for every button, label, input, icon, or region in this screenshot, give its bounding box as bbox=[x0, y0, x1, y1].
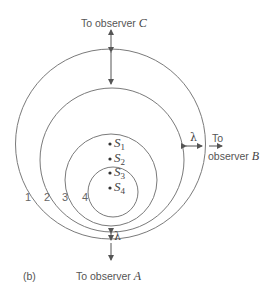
source-dot-1 bbox=[108, 142, 111, 145]
observer-c-label: To observer C bbox=[81, 17, 147, 29]
observer-a-label: To observer A bbox=[76, 270, 141, 282]
observer-b-label-line1: To bbox=[212, 133, 223, 144]
wavefront-label-4: 4 bbox=[82, 192, 88, 203]
source-label-4: S4 bbox=[114, 180, 125, 196]
wavefront-2 bbox=[40, 88, 184, 232]
source-dot-3 bbox=[108, 171, 111, 174]
doppler-wavefront-diagram bbox=[0, 0, 270, 285]
source-dot-4 bbox=[108, 186, 111, 189]
wavefront-4 bbox=[88, 167, 138, 217]
wavelength-label-right: λ bbox=[190, 132, 197, 143]
panel-label: (b) bbox=[23, 271, 36, 282]
wavefront-label-3: 3 bbox=[62, 192, 68, 203]
wavefront-label-1: 1 bbox=[25, 192, 31, 203]
observer-b-label-line2: observer B bbox=[208, 150, 259, 162]
source-dot-2 bbox=[108, 157, 111, 160]
wavefront-3 bbox=[65, 134, 157, 226]
wavelength-label-bottom: λ bbox=[114, 231, 121, 242]
wavefront-label-2: 2 bbox=[44, 192, 50, 203]
